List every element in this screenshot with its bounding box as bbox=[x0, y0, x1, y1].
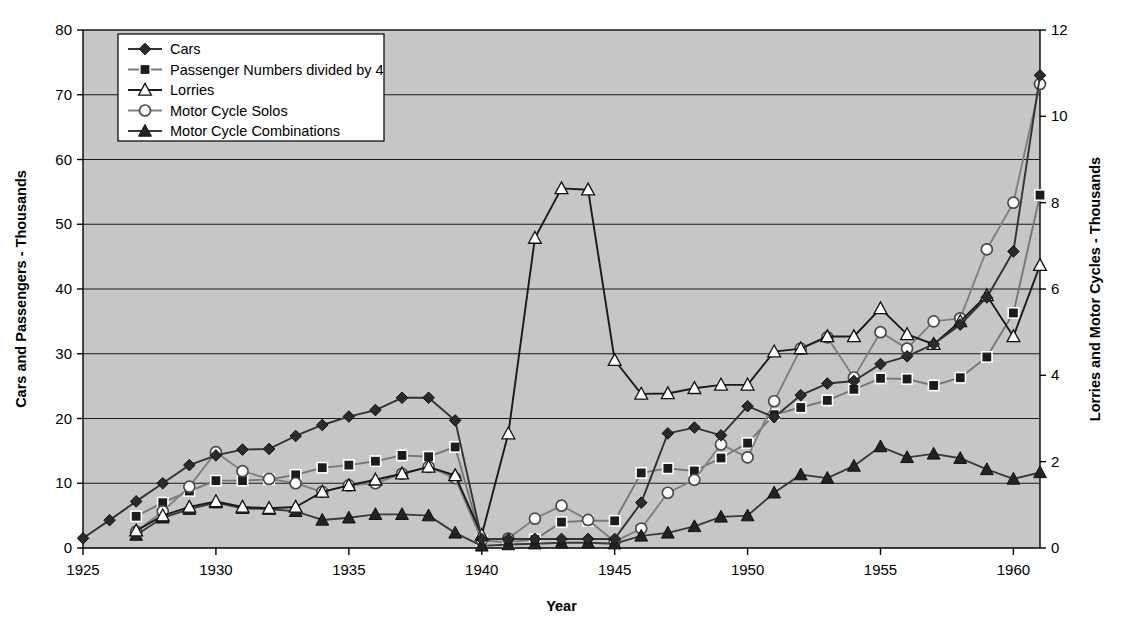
marker-circle-open-icon bbox=[981, 244, 992, 255]
data-point-marker bbox=[344, 460, 354, 470]
x-axis-tick-label: 1945 bbox=[598, 561, 631, 578]
x-axis-tick-label: 1925 bbox=[66, 561, 99, 578]
data-point-marker bbox=[928, 380, 938, 390]
marker-square-icon bbox=[556, 517, 566, 527]
legend-item-label: Motor Cycle Solos bbox=[170, 103, 288, 119]
legend: CarsPassenger Numbers divided by 4Lorrie… bbox=[118, 34, 384, 141]
data-point-marker bbox=[636, 468, 646, 478]
data-point-marker bbox=[742, 438, 752, 448]
y-axis-right-tick-label: 6 bbox=[1051, 280, 1059, 297]
marker-circle-open-icon bbox=[290, 478, 301, 489]
marker-square-icon bbox=[317, 463, 327, 473]
line-chart: 0102030405060708002468101219251930193519… bbox=[0, 0, 1122, 635]
marker-circle-open-icon bbox=[662, 487, 673, 498]
marker-square-icon bbox=[450, 442, 460, 452]
y-axis-right-tick-label: 2 bbox=[1051, 453, 1059, 470]
marker-circle-open-icon bbox=[237, 466, 248, 477]
data-point-marker bbox=[450, 442, 460, 452]
marker-circle-open-icon bbox=[689, 474, 700, 485]
data-point-marker bbox=[290, 478, 301, 489]
marker-square-icon bbox=[796, 402, 806, 412]
marker-square-icon bbox=[344, 460, 354, 470]
marker-circle-open-icon bbox=[264, 473, 275, 484]
marker-circle-open-icon bbox=[742, 452, 753, 463]
data-point-marker bbox=[982, 352, 992, 362]
x-axis-tick-label: 1950 bbox=[731, 561, 764, 578]
data-point-marker bbox=[981, 244, 992, 255]
y-axis-right-tick-label: 0 bbox=[1051, 539, 1059, 556]
data-point-marker bbox=[689, 474, 700, 485]
marker-square-icon bbox=[928, 380, 938, 390]
data-point-marker bbox=[928, 316, 939, 327]
marker-square-icon bbox=[875, 373, 885, 383]
marker-square-icon bbox=[636, 468, 646, 478]
data-point-marker bbox=[583, 514, 594, 525]
x-axis-tick-label: 1940 bbox=[465, 561, 498, 578]
marker-circle-open-icon bbox=[140, 105, 151, 116]
marker-square-icon bbox=[982, 352, 992, 362]
marker-circle-open-icon bbox=[583, 514, 594, 525]
marker-circle-open-icon bbox=[556, 500, 567, 511]
data-point-marker bbox=[663, 463, 673, 473]
marker-square-icon bbox=[609, 516, 619, 526]
x-axis-ticks: 19251930193519401945195019551960 bbox=[66, 548, 1030, 578]
marker-circle-open-icon bbox=[928, 316, 939, 327]
legend-item-label: Motor Cycle Combinations bbox=[170, 123, 340, 139]
y-axis-right-tick-label: 8 bbox=[1051, 194, 1059, 211]
y-axis-right-tick-label: 4 bbox=[1051, 366, 1059, 383]
x-axis-tick-label: 1960 bbox=[997, 561, 1030, 578]
data-point-marker bbox=[662, 487, 673, 498]
marker-square-icon bbox=[1035, 190, 1045, 200]
x-axis-title: Year bbox=[546, 598, 577, 614]
marker-circle-open-icon bbox=[184, 481, 195, 492]
y-axis-left-tick-label: 70 bbox=[55, 86, 72, 103]
legend-item-label: Cars bbox=[170, 41, 201, 57]
data-point-marker bbox=[955, 373, 965, 383]
marker-square-icon bbox=[902, 374, 912, 384]
marker-square-icon bbox=[211, 475, 221, 485]
data-point-marker bbox=[769, 396, 780, 407]
data-point-marker bbox=[211, 475, 221, 485]
y-axis-left-tick-label: 50 bbox=[55, 215, 72, 232]
x-axis-tick-label: 1930 bbox=[199, 561, 232, 578]
data-point-marker bbox=[1008, 308, 1018, 318]
marker-circle-open-icon bbox=[1008, 197, 1019, 208]
y-axis-right-tick-label: 10 bbox=[1051, 107, 1068, 124]
x-axis-tick-label: 1935 bbox=[332, 561, 365, 578]
data-point-marker bbox=[822, 395, 832, 405]
data-point-marker bbox=[902, 374, 912, 384]
marker-square-icon bbox=[131, 511, 141, 521]
marker-square-icon bbox=[663, 463, 673, 473]
marker-circle-open-icon bbox=[529, 513, 540, 524]
data-point-marker bbox=[237, 466, 248, 477]
marker-square-icon bbox=[716, 453, 726, 463]
marker-square-icon bbox=[397, 450, 407, 460]
y-axis-right-title: Lorries and Motor Cycles - Thousands bbox=[1087, 157, 1103, 421]
data-point-marker bbox=[716, 453, 726, 463]
marker-square-icon bbox=[742, 438, 752, 448]
legend-item-label: Lorries bbox=[170, 82, 214, 98]
y-axis-left-tick-label: 20 bbox=[55, 410, 72, 427]
y-axis-left-tick-label: 30 bbox=[55, 345, 72, 362]
chart-container: 0102030405060708002468101219251930193519… bbox=[0, 0, 1122, 635]
data-point-marker bbox=[1008, 197, 1019, 208]
marker-square-icon bbox=[1008, 308, 1018, 318]
data-point-marker bbox=[875, 373, 885, 383]
data-point-marker bbox=[556, 517, 566, 527]
data-point-marker bbox=[556, 500, 567, 511]
data-point-marker bbox=[529, 513, 540, 524]
marker-circle-open-icon bbox=[769, 396, 780, 407]
data-point-marker bbox=[796, 402, 806, 412]
data-point-marker bbox=[184, 481, 195, 492]
data-point-marker bbox=[609, 516, 619, 526]
marker-circle-open-icon bbox=[875, 327, 886, 338]
data-point-marker bbox=[264, 473, 275, 484]
y-axis-left-tick-label: 10 bbox=[55, 474, 72, 491]
y-axis-left-tick-label: 60 bbox=[55, 151, 72, 168]
legend-item-label: Passenger Numbers divided by 4 bbox=[170, 62, 384, 78]
data-point-marker bbox=[1035, 190, 1045, 200]
y-axis-left-tick-label: 80 bbox=[55, 21, 72, 38]
y-axis-left-tick-label: 40 bbox=[55, 280, 72, 297]
data-point-marker bbox=[742, 452, 753, 463]
x-axis-tick-label: 1955 bbox=[864, 561, 897, 578]
